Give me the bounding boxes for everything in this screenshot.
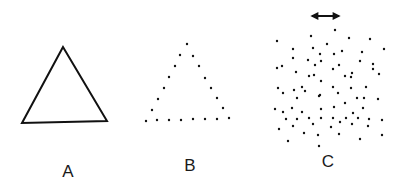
dot [274,108,276,110]
dot [319,94,321,96]
dot [216,118,218,120]
dot [369,38,371,40]
dot [318,145,320,147]
dot [345,117,347,119]
dot [151,109,153,111]
dot [337,92,339,94]
dot [291,107,293,109]
dot [356,97,358,99]
dot [282,92,284,94]
dot [277,87,279,89]
dot [361,51,363,53]
dot [296,97,298,99]
dot [367,125,369,127]
dot [348,37,350,39]
dot [145,120,147,122]
panel-label-c: C [322,153,334,170]
dot [281,65,283,67]
dot [287,140,289,142]
dot [368,118,370,120]
dot [293,89,295,91]
dot [338,133,340,135]
dot [174,65,176,67]
dot [303,132,305,134]
dot [282,111,284,113]
dot [228,117,230,119]
dot [216,97,218,99]
dot [344,102,346,104]
dot [192,118,194,120]
dot [332,86,334,88]
dot [362,107,364,109]
dot [332,68,334,70]
dot [377,98,379,100]
dot [310,35,312,37]
dot [334,29,336,31]
dot [352,112,354,114]
dotted-triangle [145,43,230,122]
dot [381,134,383,136]
dot [156,119,158,121]
dot [365,86,367,88]
dot [372,63,374,65]
dot [381,119,383,121]
dot [326,43,328,45]
panel-label-a: A [62,163,73,180]
dot [351,72,353,74]
dot [350,87,352,89]
dot [292,57,294,59]
dot [333,106,335,108]
dot [204,118,206,120]
dot [285,118,287,120]
dot [301,86,303,88]
dot [180,119,182,121]
dot [308,75,310,77]
dot [292,125,294,127]
dot [308,117,310,119]
dot [351,123,353,125]
dot [292,48,294,50]
dot [198,65,200,67]
dot [301,111,303,113]
dot [320,108,322,110]
dot [344,75,346,77]
dot [320,80,322,82]
figure-canvas [0,0,406,193]
dot [320,117,322,119]
dot [312,47,314,49]
dot [312,123,314,125]
dot [304,90,306,92]
dot [278,128,280,130]
dot [333,53,335,55]
dot [186,43,188,45]
dot [357,117,359,119]
dot [210,87,212,89]
dot [332,117,334,119]
dot [372,68,374,70]
dot [204,77,206,79]
dot [295,71,297,73]
random-dot-field [274,16,385,147]
dot [296,118,298,120]
dot [383,48,385,50]
dot [307,59,309,61]
dot [363,97,365,99]
dot [319,53,321,55]
panel-label-b: B [184,157,195,174]
triangle-outline [22,47,107,123]
dot [168,119,170,121]
dot [378,73,380,75]
dot [330,126,332,128]
dot [163,87,165,89]
dot [179,54,181,56]
solid-triangle [22,47,107,123]
dot [341,50,343,52]
dot [313,74,315,76]
dot [192,55,194,57]
dot [222,107,224,109]
dot [168,76,170,78]
dot [276,67,278,69]
dot [157,98,159,100]
dot [339,121,341,123]
dot [317,134,319,136]
